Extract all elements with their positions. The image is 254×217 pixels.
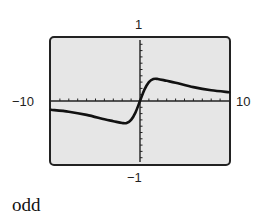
x-min-label: −10 — [12, 94, 34, 109]
parity-answer: odd — [12, 194, 41, 216]
x-max-label: 10 — [236, 94, 250, 109]
y-min-label: −1 — [127, 170, 142, 185]
y-max-label: 1 — [135, 17, 142, 32]
